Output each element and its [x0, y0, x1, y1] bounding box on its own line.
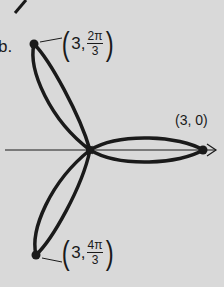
angle-denominator: 3 [92, 253, 99, 266]
point-label-top: ( 3, 2π 3 ) [60, 26, 116, 60]
open-paren: ( [62, 235, 70, 269]
angle-numerator: 4π [87, 239, 104, 253]
open-paren: ( [62, 26, 70, 60]
point-bottom [32, 251, 41, 260]
radius-value: 3, [71, 244, 85, 261]
angle-denominator: 3 [92, 44, 99, 57]
point-top [30, 40, 39, 49]
point-right [199, 146, 208, 155]
part-label: b. [0, 38, 12, 55]
angle-numerator: 2π [87, 30, 104, 44]
leader-line-top [40, 38, 62, 42]
point-label-bottom: ( 3, 4π 3 ) [60, 235, 116, 269]
radius-value: 3, [71, 35, 85, 52]
origin-point [86, 146, 94, 154]
partial-line [15, 0, 26, 13]
leader-line-bottom [42, 258, 62, 262]
angle-fraction: 4π 3 [87, 239, 104, 266]
close-paren: ) [106, 235, 114, 269]
polar-rose-figure: b. ( 3, 2π 3 ) (3, 0) ( 3, 4π 3 ) [0, 0, 224, 287]
angle-fraction: 2π 3 [87, 30, 104, 57]
close-paren: ) [106, 26, 114, 60]
point-label-right: (3, 0) [175, 113, 208, 127]
